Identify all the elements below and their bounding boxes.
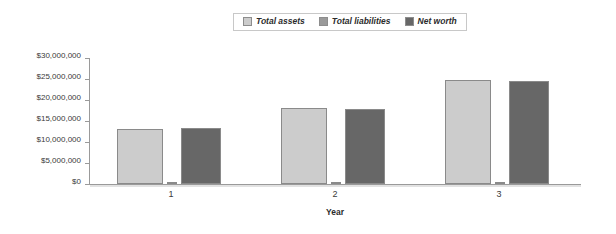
y-tick-1: $5,000,000 xyxy=(85,163,89,164)
x-axis-title: Year xyxy=(89,208,581,217)
y-tick-label-6: $30,000,000 xyxy=(37,52,82,60)
legend-swatch-total-assets xyxy=(243,17,252,26)
y-tick-4: $20,000,000 xyxy=(85,100,89,101)
bar-group-year-3 xyxy=(445,58,569,184)
bar-assets-year-2[interactable] xyxy=(281,108,327,184)
y-axis-line xyxy=(89,58,90,185)
bar-networth-year-3[interactable] xyxy=(509,81,549,184)
y-tick-label-2: $10,000,000 xyxy=(37,136,82,144)
chart-legend: Total assets Total liabilities Net worth xyxy=(233,13,467,31)
legend-label-total-assets: Total assets xyxy=(256,17,305,26)
legend-swatch-net-worth xyxy=(405,17,414,26)
x-axis-baseline-shadow xyxy=(90,185,581,187)
legend-swatch-total-liabilities xyxy=(319,17,328,26)
plot-area: $0$5,000,000$10,000,000$15,000,000$20,00… xyxy=(89,58,581,185)
bar-chart: Total assets Total liabilities Net worth… xyxy=(0,0,616,234)
bar-liabilities-year-1[interactable] xyxy=(167,182,177,184)
y-tick-5: $25,000,000 xyxy=(85,79,89,80)
bar-assets-year-3[interactable] xyxy=(445,80,491,184)
x-label-year-2: 2 xyxy=(332,190,337,199)
bar-networth-year-1[interactable] xyxy=(181,128,221,184)
y-tick-2: $10,000,000 xyxy=(85,142,89,143)
y-tick-6: $30,000,000 xyxy=(85,58,89,59)
y-tick-0: $0 xyxy=(85,184,89,185)
y-tick-label-3: $15,000,000 xyxy=(37,115,82,123)
legend-item-net-worth[interactable]: Net worth xyxy=(405,17,457,26)
bar-assets-year-1[interactable] xyxy=(117,129,163,184)
x-label-year-3: 3 xyxy=(496,190,501,199)
x-label-year-1: 1 xyxy=(168,190,173,199)
bar-liabilities-year-3[interactable] xyxy=(495,182,505,184)
bar-networth-year-2[interactable] xyxy=(345,109,385,184)
legend-item-total-assets[interactable]: Total assets xyxy=(243,17,305,26)
y-tick-label-1: $5,000,000 xyxy=(41,157,81,165)
y-tick-label-4: $20,000,000 xyxy=(37,94,82,102)
bar-group-year-1 xyxy=(117,58,241,184)
legend-item-total-liabilities[interactable]: Total liabilities xyxy=(319,17,391,26)
bar-group-year-2 xyxy=(281,58,405,184)
bar-liabilities-year-2[interactable] xyxy=(331,182,341,184)
legend-label-net-worth: Net worth xyxy=(418,17,457,26)
legend-label-total-liabilities: Total liabilities xyxy=(332,17,391,26)
y-tick-label-0: $0 xyxy=(72,178,81,186)
y-tick-3: $15,000,000 xyxy=(85,121,89,122)
y-tick-label-5: $25,000,000 xyxy=(37,73,82,81)
